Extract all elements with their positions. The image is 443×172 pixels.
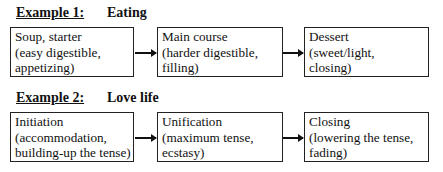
step-line: (accommodation, — [15, 130, 129, 146]
example-2-step-2-box: Unification (maximum tense, ecstasy) — [157, 112, 283, 162]
example-2-step-3-box: Closing (lowering the tense, fading) — [304, 112, 429, 162]
step-line: building-up the tense) — [15, 145, 129, 161]
example-2-heading: Example 2:Love life — [16, 90, 159, 106]
arrow-icon — [135, 137, 156, 139]
example-2-step-1-box: Initiation (accommodation, building-up t… — [10, 112, 134, 162]
step-line: Dessert — [309, 29, 424, 45]
step-line: Main course — [162, 29, 278, 45]
arrow-icon — [135, 52, 156, 54]
step-line: Soup, starter — [15, 29, 129, 45]
step-line: fading) — [309, 145, 424, 161]
example-1-step-1-box: Soup, starter (easy digestible, appetizi… — [10, 27, 134, 77]
step-line: (easy digestible, — [15, 45, 129, 61]
step-line: Closing — [309, 114, 424, 130]
arrow-icon — [283, 137, 303, 139]
step-line: (sweet/light, — [309, 45, 424, 61]
step-line: ecstasy) — [162, 145, 278, 161]
step-line: Unification — [162, 114, 278, 130]
step-line: closing) — [309, 60, 424, 76]
step-line: filling) — [162, 60, 278, 76]
step-line: (maximum tense, — [162, 130, 278, 146]
example-2-label: Example 2: — [16, 90, 107, 106]
example-1-label: Example 1: — [16, 5, 107, 21]
example-1-heading: Example 1:Eating — [16, 5, 147, 21]
step-line: Initiation — [15, 114, 129, 130]
example-1-title: Eating — [107, 5, 147, 20]
example-1-step-3-box: Dessert (sweet/light, closing) — [304, 27, 429, 77]
step-line: appetizing) — [15, 60, 129, 76]
arrow-icon — [283, 52, 303, 54]
example-2-title: Love life — [107, 90, 159, 105]
step-line: (harder digestible, — [162, 45, 278, 61]
example-1-step-2-box: Main course (harder digestible, filling) — [157, 27, 283, 77]
step-line: (lowering the tense, — [309, 130, 424, 146]
